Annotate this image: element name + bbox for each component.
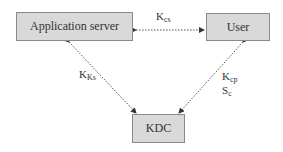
node-kdc: KDC	[132, 114, 185, 143]
edge-label-kcs: Kcs	[156, 10, 171, 24]
edge-label-kcp: Kcp	[222, 70, 238, 84]
diagram-canvas: Application server User KDC Kcs KKs Kcp …	[0, 0, 283, 152]
node-label: User	[227, 20, 250, 35]
edge-label-sc: Sc	[222, 84, 232, 98]
node-label: Application server	[30, 19, 119, 34]
node-user: User	[206, 13, 270, 41]
node-application-server: Application server	[16, 12, 133, 41]
edge-label-kks: KKs	[79, 68, 96, 82]
node-label: KDC	[146, 121, 171, 136]
